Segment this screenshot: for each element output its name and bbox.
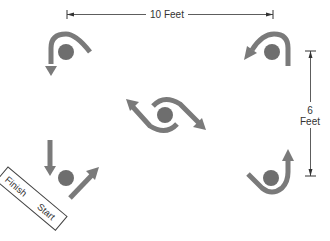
cone-icon (263, 170, 279, 186)
cone-bottom-right (248, 149, 294, 192)
cone-icon (58, 170, 74, 186)
horizontal-dimension-label: 10 Feet (150, 9, 184, 20)
start-finish-box: Finish Start (0, 167, 67, 230)
cone-center (126, 99, 206, 131)
vertical-dimension-unit: Feet (300, 116, 320, 127)
cone-top-left (45, 34, 90, 76)
cone-icon (264, 44, 280, 60)
cone-drill-diagram: 10 Feet 6 Feet (0, 0, 330, 241)
vertical-dimension: 6 Feet (300, 51, 320, 176)
cone-top-right (244, 34, 288, 66)
vertical-dimension-value: 6 (307, 105, 313, 116)
cone-icon (58, 44, 74, 60)
cone-icon (157, 107, 173, 123)
cone-bottom-left (44, 140, 99, 198)
horizontal-dimension: 10 Feet (67, 9, 273, 20)
